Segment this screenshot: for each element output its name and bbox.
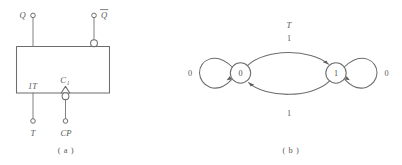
clock-input-inner-label: C xyxy=(60,75,66,85)
t-input-terminal-icon xyxy=(31,119,36,124)
cp-input-label: CP xyxy=(61,128,73,138)
self-loop-state-1-label: 0 xyxy=(384,69,388,78)
panel-a-caption: ( a ) xyxy=(58,146,74,155)
self-loop-state-0-label: 0 xyxy=(188,69,192,78)
clock-input-inner-subscript: 1 xyxy=(67,80,70,86)
dynamic-input-triangle-icon xyxy=(61,86,70,93)
panel-b-caption: ( b ) xyxy=(283,146,300,155)
state-node-1-label: 1 xyxy=(334,69,338,78)
figure-root: Q Q 1T C 1 T CP ( a ) 0 1 0 0 xyxy=(0,0,402,165)
panel-a-group: Q Q 1T C 1 T CP ( a ) xyxy=(17,10,110,155)
q-output-label: Q xyxy=(19,10,26,20)
transition-1-to-0-label: 1 xyxy=(287,109,291,118)
qbar-output-label: Q xyxy=(101,10,108,20)
self-loop-state-0 xyxy=(199,58,232,88)
t-input-label: T xyxy=(31,128,37,138)
transition-0-to-1-label: 1 xyxy=(287,34,291,43)
transition-1-to-0 xyxy=(249,81,330,94)
panel-b-group: 0 1 0 0 T 1 1 ( b ) xyxy=(188,20,389,155)
qbar-inversion-bubble-icon xyxy=(91,40,98,47)
cp-inversion-bubble-icon xyxy=(62,93,69,100)
qbar-output-terminal-icon xyxy=(92,13,97,18)
self-loop-state-1 xyxy=(344,58,377,88)
transition-0-to-1 xyxy=(247,53,328,66)
cp-input-terminal-icon xyxy=(63,119,68,124)
figure-svg: Q Q 1T C 1 T CP ( a ) 0 1 0 0 xyxy=(0,0,402,165)
transition-0-to-1-input-label: T xyxy=(287,20,293,30)
state-node-0-label: 0 xyxy=(238,69,242,78)
t-input-inner-label: 1T xyxy=(28,81,38,91)
q-output-terminal-icon xyxy=(31,13,36,18)
